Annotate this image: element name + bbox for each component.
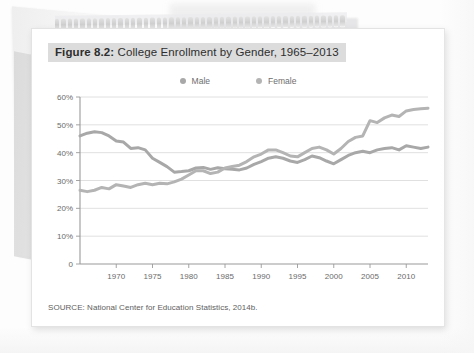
spiral-coil [315, 16, 319, 27]
bottom-shading [0, 327, 474, 353]
legend-dot-icon [180, 78, 186, 84]
spiral-coil [220, 17, 224, 28]
spiral-coil [302, 16, 306, 27]
y-tick-label: 60% [57, 93, 73, 102]
line-chart-svg: 010%20%30%40%50%60%197019751980198519901… [40, 91, 436, 296]
x-tick-label: 1980 [180, 272, 198, 281]
x-tick-label: 1985 [216, 272, 234, 281]
figure-title: Figure 8.2: College Enrollment by Gender… [48, 43, 346, 62]
x-tick-label: 2010 [397, 272, 415, 281]
figure-title-wrap: Figure 8.2: College Enrollment by Gender… [48, 42, 346, 62]
x-tick-label: 1970 [107, 272, 125, 281]
spiral-coil [258, 16, 262, 27]
figure-title-rest: College Enrollment by Gender, 1965–2013 [114, 46, 339, 58]
spiral-coil [214, 17, 218, 28]
figure-card: Figure 8.2: College Enrollment by Gender… [31, 28, 445, 327]
y-tick-label: 20% [57, 204, 73, 213]
spiral-coil [169, 17, 173, 28]
y-tick-label: 10% [57, 232, 73, 241]
plot-area: 010%20%30%40%50%60%197019751980198519901… [40, 91, 436, 296]
legend-item-male[interactable]: Male [180, 76, 210, 86]
legend-label: Female [268, 76, 296, 86]
x-tick-label: 2005 [361, 272, 379, 281]
right-shading [440, 0, 474, 353]
spiral-coil [340, 15, 344, 26]
spiral-coil [334, 15, 338, 26]
chart-legend: MaleFemale [32, 76, 444, 86]
legend-item-female[interactable]: Female [256, 76, 296, 86]
spiral-coil [252, 16, 256, 27]
spiral-coil [296, 16, 300, 27]
spiral-coil [175, 17, 179, 28]
x-tick-label: 1995 [289, 272, 307, 281]
spiral-coil [277, 16, 281, 27]
spiral-coil [194, 17, 198, 28]
spiral-coil [239, 16, 243, 27]
spiral-coil [226, 17, 230, 28]
spiral-coil [233, 17, 237, 28]
source-note: SOURCE: National Center for Education St… [48, 303, 258, 312]
spiral-coil [156, 17, 160, 28]
y-tick-label: 50% [57, 121, 73, 130]
spiral-coil [150, 18, 154, 29]
y-tick-label: 30% [57, 177, 73, 186]
spiral-coil [182, 17, 186, 28]
spiral-coil [201, 17, 205, 28]
x-tick-label: 1975 [144, 272, 162, 281]
spiral-coil [290, 16, 294, 27]
spiral-coil [207, 17, 211, 28]
legend-dot-icon [256, 78, 262, 84]
spiral-coil [321, 15, 325, 26]
spiral-coil [163, 17, 167, 28]
legend-label: Male [192, 76, 210, 86]
x-tick-label: 1990 [252, 272, 270, 281]
spiral-coil [309, 16, 313, 27]
photo-scene: Figure 8.2: College Enrollment by Gender… [0, 0, 474, 353]
spiral-coil [283, 16, 287, 27]
spiral-coil [245, 16, 249, 27]
spiral-coil [188, 17, 192, 28]
x-tick-label: 2000 [325, 272, 343, 281]
figure-label: Figure 8.2: [55, 46, 114, 58]
spiral-coil [264, 16, 268, 27]
spiral-coil [271, 16, 275, 27]
y-tick-label: 40% [57, 149, 73, 158]
y-tick-label: 0 [69, 260, 74, 269]
spiral-coil [328, 15, 332, 26]
series-line-male [80, 132, 428, 172]
